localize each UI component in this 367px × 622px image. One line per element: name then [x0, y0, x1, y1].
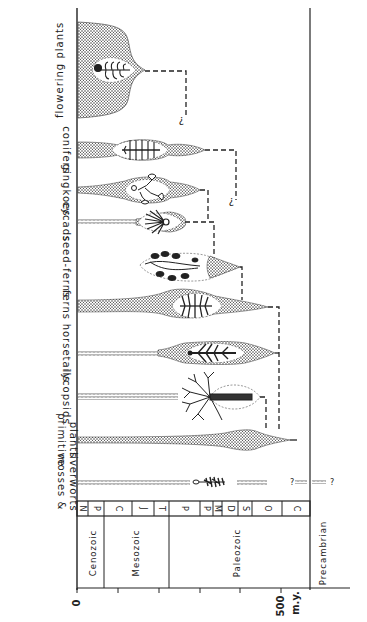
lycopsids-ancestry-line	[260, 397, 266, 430]
uncertain-marker: ?	[228, 196, 234, 207]
period-label: P	[92, 506, 101, 511]
period-label: C	[292, 506, 301, 512]
period-label: J	[139, 506, 148, 509]
period-label: O	[263, 505, 272, 511]
period-label: T	[157, 505, 166, 511]
uncertain-marker: ?	[178, 115, 184, 126]
flowering-ancestry-line	[145, 71, 186, 118]
conifers-ancestry-line	[205, 150, 236, 200]
label-flowering-plants: flowering plants	[54, 22, 65, 118]
axis-unit-label: m.y.	[290, 591, 301, 615]
period-label: M	[213, 505, 222, 512]
label-seed-ferns: seed-ferns	[61, 236, 72, 299]
era-mesozoic: Mesozoic	[131, 530, 141, 577]
gingkoes-ancestry-line	[200, 190, 208, 222]
moss-icon	[193, 477, 225, 487]
lycopsid-icon	[182, 372, 252, 420]
seed-ferns-ancestry-line	[240, 267, 242, 300]
period-label: P	[202, 506, 211, 511]
geologic-time-scale: N P C J T P P M D S O C Cenozoic Mesozoi…	[77, 501, 328, 588]
time-axis: 0 500 m.y.	[71, 588, 350, 616]
lineage-gingkoes: gingkoes	[61, 164, 208, 222]
lineage-horsetails: horsetails	[61, 324, 279, 383]
period-label: N	[78, 506, 87, 512]
lineage-primitive-plants: primitive plants	[56, 413, 297, 467]
lineage-lycopsids: lycopsids	[61, 369, 266, 430]
uncertain-marker: ?	[330, 478, 334, 487]
lineage-flowering-plants: ? flowering plants	[54, 22, 186, 126]
axis-label-zero: 0	[71, 599, 82, 606]
lineage-mosses-liverworts: ? ? mosses & liverworts	[56, 452, 334, 511]
era-cenozoic: Cenozoic	[88, 530, 98, 576]
period-label: C	[114, 506, 123, 512]
uncertain-marker: ?	[290, 478, 294, 487]
label-mosses-line1: mosses &	[56, 454, 67, 511]
plant-evolution-diagram: ? flowering plants ? conifers gingkoes	[0, 0, 367, 622]
period-label: D	[226, 505, 235, 511]
ferns-ancestry-line	[268, 307, 279, 430]
period-labels: N P C J T P P M D S O C	[78, 505, 301, 512]
label-ferns: ferns	[61, 290, 72, 320]
lineage-seed-ferns: seed-ferns	[61, 236, 242, 300]
era-paleozoic: Paleozoic	[232, 529, 242, 577]
period-label: S	[241, 506, 250, 511]
period-label: P	[180, 506, 189, 511]
era-precambrian: Precambrian	[318, 521, 328, 586]
axis-label-500: 500	[275, 596, 286, 617]
